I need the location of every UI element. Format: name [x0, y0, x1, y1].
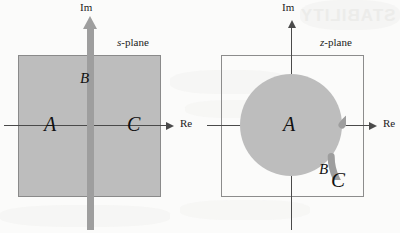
z-plane-imaginary-axis-arrow-icon: [288, 20, 296, 28]
z-plane-region-label-a: A: [283, 114, 295, 134]
figure-canvas: STABILITY Re Im s-plane A B C Re: [0, 0, 400, 233]
z-plane-real-axis-arrow-icon: [369, 122, 377, 130]
z-plane-title: z-plane: [320, 36, 352, 48]
z-plane-imaginary-axis-label: Im: [282, 1, 294, 13]
z-plane-title-suffix: -plane: [324, 36, 351, 48]
z-plane-region-label-b: B: [319, 162, 328, 177]
z-plane-region-label-c: C: [331, 170, 345, 191]
z-plane-diagram: Re Im z-plane A B C: [0, 0, 400, 233]
z-plane-real-axis-label: Re: [383, 117, 395, 129]
